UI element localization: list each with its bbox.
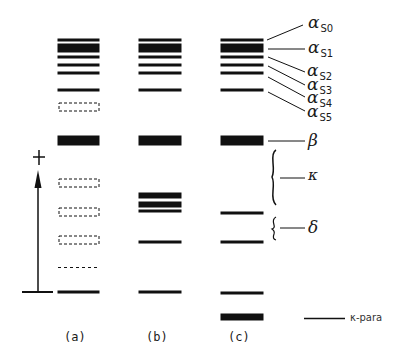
label-alpha-s5: αS5 bbox=[307, 101, 332, 121]
greek-symbol: α bbox=[308, 37, 319, 57]
label-delta: δ bbox=[308, 217, 318, 237]
kappa-brace bbox=[272, 150, 276, 205]
column-label-a: (a) bbox=[64, 330, 86, 344]
column-a-levels bbox=[58, 39, 99, 293]
greek-symbol: α bbox=[307, 101, 318, 121]
column-b-levels bbox=[139, 39, 181, 293]
column-c-levels bbox=[221, 39, 263, 320]
alpha-leader-lines bbox=[267, 25, 305, 111]
energy-level-diagram bbox=[0, 0, 404, 363]
energy-arrow bbox=[22, 170, 53, 292]
subscript: S1 bbox=[320, 48, 333, 59]
column-label-b: (b) bbox=[146, 330, 168, 344]
label-kappa: κ bbox=[308, 166, 318, 184]
legend-kappa-para-label: κ-para bbox=[350, 312, 382, 323]
label-alpha-s0: αS0 bbox=[308, 12, 333, 32]
plus-marker bbox=[33, 150, 45, 165]
greek-symbol: α bbox=[308, 12, 319, 32]
label-beta: β bbox=[308, 130, 318, 150]
subscript: S0 bbox=[320, 23, 333, 34]
subscript: S5 bbox=[319, 112, 332, 123]
delta-brace bbox=[272, 217, 276, 240]
column-label-c: (c) bbox=[228, 330, 250, 344]
label-alpha-s1: αS1 bbox=[308, 37, 333, 57]
